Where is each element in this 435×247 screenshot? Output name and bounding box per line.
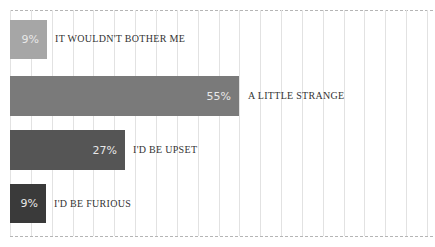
bar-wouldnt-bother: 9% — [10, 20, 47, 59]
bar-value: 55% — [207, 90, 231, 103]
gridline — [406, 10, 407, 236]
horizontal-bar-chart: 9% IT WOULDN'T BOTHER ME 55% A LITTLE ST… — [0, 0, 435, 247]
bar-value: 27% — [93, 144, 117, 157]
gridline — [52, 10, 53, 236]
gridline — [344, 10, 345, 236]
gridline — [427, 10, 428, 236]
bar-label: I'D BE UPSET — [133, 144, 197, 155]
gridline — [260, 10, 261, 236]
bar-upset: 27% — [10, 130, 125, 170]
gridline — [323, 10, 324, 236]
bar-little-strange: 55% — [10, 76, 239, 116]
bar-furious: 9% — [10, 184, 46, 223]
gridline — [239, 10, 240, 236]
bottom-dashed-border — [10, 236, 433, 237]
bar-label: A LITTLE STRANGE — [248, 90, 344, 101]
gridline — [198, 10, 199, 236]
gridline — [281, 10, 282, 236]
gridline — [385, 10, 386, 236]
bar-label: IT WOULDN'T BOTHER ME — [55, 33, 185, 44]
bar-value: 9% — [21, 197, 38, 210]
gridline — [219, 10, 220, 236]
bar-value: 9% — [22, 33, 39, 46]
gridline — [302, 10, 303, 236]
gridline — [364, 10, 365, 236]
bar-label: I'D BE FURIOUS — [54, 198, 131, 209]
